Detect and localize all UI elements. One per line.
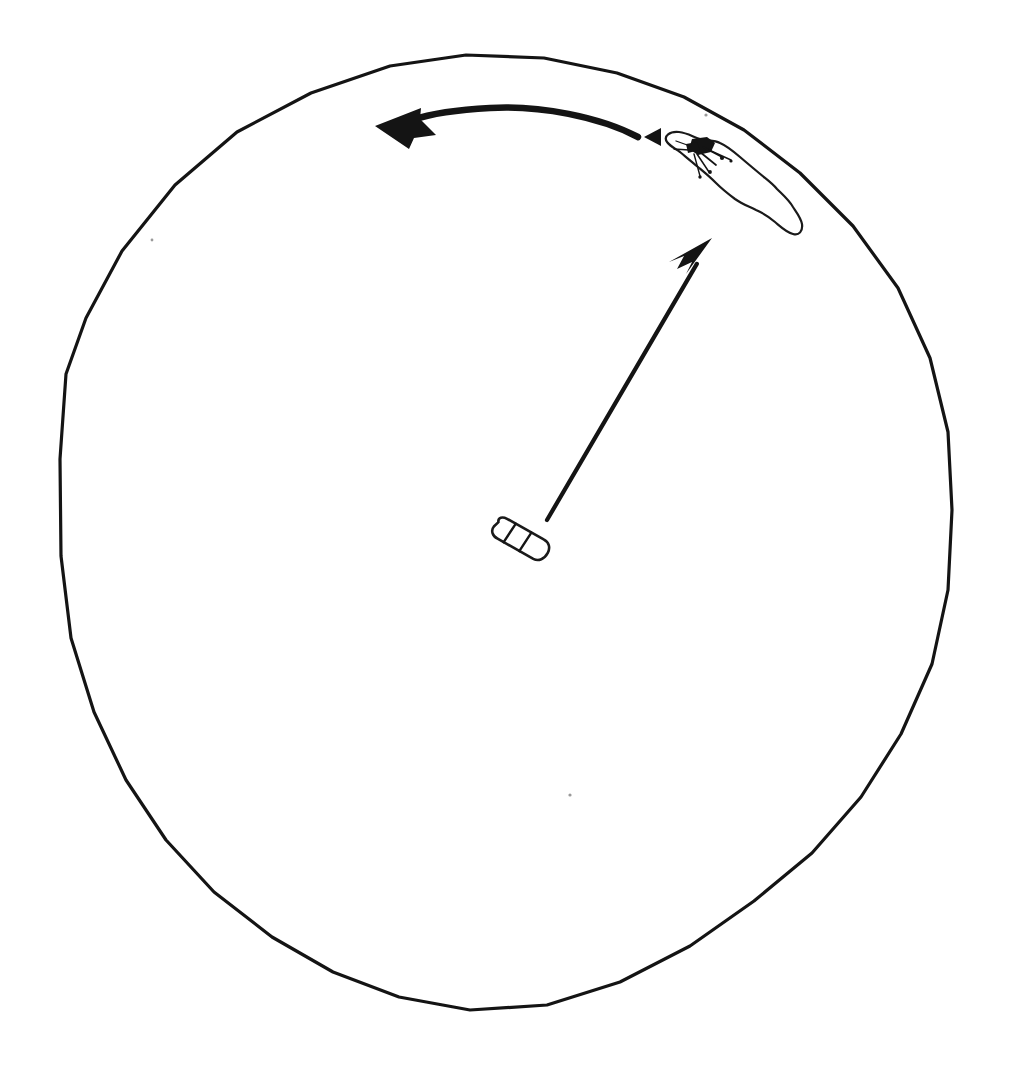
diagram-canvas: hand drawn many-sided polygon approximat… xyxy=(0,0,1012,1089)
speck-upper xyxy=(704,113,707,116)
diagram-svg xyxy=(0,0,1012,1089)
curved-arrow-group xyxy=(375,108,638,149)
triangle-marker-icon xyxy=(644,128,661,146)
center-vessel-marker xyxy=(489,515,553,564)
speck-left xyxy=(151,239,154,242)
speck-lower xyxy=(568,793,571,796)
straight-arrow-head-icon xyxy=(669,238,712,274)
straight-arrow-group xyxy=(547,238,712,520)
curved-arrow-shaft xyxy=(412,108,638,137)
island-outline-shape xyxy=(666,132,802,235)
straight-arrow-shaft xyxy=(547,264,697,520)
